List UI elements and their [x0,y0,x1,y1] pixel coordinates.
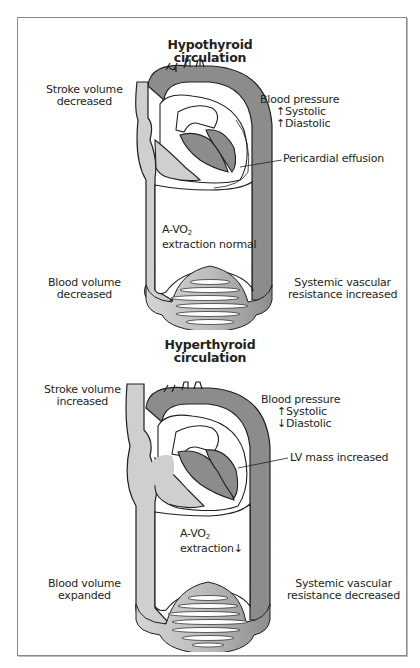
panel-hyperthyroid: Hyperthyroid circulation Stroke volume i… [0,322,420,642]
svr-label: Systemic vascular resistance increased [288,277,397,301]
lv-mass-label: LV mass increased [290,452,388,464]
hyperthyroid-circulation-diagram [0,322,420,652]
stroke-volume-label: Stroke volume decreased [46,84,123,108]
heart-illustration [155,95,249,188]
blood-volume-label: Blood volume expanded [48,578,121,602]
blood-volume-label: Blood volume decreased [48,277,121,301]
arrow-up-icon: ↑ [276,117,285,130]
avo2-extraction-label: A-VO2 extraction normal [162,224,256,251]
svr-label: Systemic vascular resistance decreased [287,578,400,602]
stroke-volume-label: Stroke volume increased [44,384,121,408]
blood-pressure-label: Blood pressure ↑Systolic ↓Diastolic [261,394,340,430]
pericardial-effusion-label: Pericardial effusion [283,153,384,165]
panel-hypothyroid: Hypothyroid circulation Stroke volume de… [0,0,420,320]
avo2-extraction-label: A-VO2 extraction↓ [180,528,243,555]
arrow-down-icon: ↓ [277,417,286,430]
panel-title: Hypothyroid circulation [0,38,420,64]
blood-pressure-label: Blood pressure ↑Systolic ↑Diastolic [260,94,339,130]
heart-illustration [150,415,247,510]
panel-title: Hyperthyroid circulation [0,338,420,364]
